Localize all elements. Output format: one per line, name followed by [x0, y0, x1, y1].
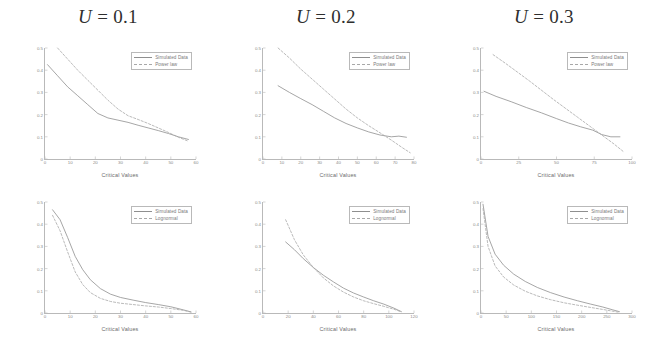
x-tick-label: 100: [385, 314, 392, 319]
y-tick-label: 0.3: [37, 90, 43, 95]
y-tick-label: 0.3: [255, 90, 261, 95]
column-title-u01: U = 0.1: [8, 6, 208, 28]
legend-swatch-simulated: [570, 56, 588, 59]
legend-label-model: Power law: [373, 62, 395, 67]
column-title-u02: U = 0.2: [226, 6, 426, 28]
y-tick-label: 0.1: [473, 134, 479, 139]
x-axis-label: Critical Values: [262, 172, 414, 178]
x-tick-label: 10: [68, 314, 73, 319]
panel-powerlaw-u03: P( α >= Critical Value) Simulated Data P…: [444, 40, 640, 188]
figure-canvas: U = 0.1 U = 0.2 U = 0.3 P( α >= Critical…: [0, 0, 653, 355]
y-tick-label: 0: [41, 157, 43, 162]
plot-area: Simulated Data Power law 025507510000.10…: [480, 48, 632, 160]
legend-label-model: Power law: [591, 62, 613, 67]
plot-area: Simulated Data Lognormal 020406080100120…: [262, 202, 414, 314]
legend-entry-simulated: Simulated Data: [570, 209, 624, 214]
legend-swatch-model: [134, 217, 152, 220]
x-axis-label: Critical Values: [262, 326, 414, 332]
plot-area: Simulated Data Power law 010203040506000…: [44, 48, 196, 160]
y-tick-label: 0.1: [37, 134, 43, 139]
y-tick-label: 0: [41, 311, 43, 316]
series-line: [483, 209, 619, 313]
y-tick-label: 0: [259, 311, 261, 316]
x-tick-label: 60: [194, 314, 199, 319]
x-tick-label: 30: [118, 160, 123, 165]
legend-entry-model: Lognormal: [570, 216, 624, 221]
x-tick-label: 25: [516, 160, 521, 165]
y-tick-label: 0.2: [255, 112, 261, 117]
legend-swatch-simulated: [134, 56, 152, 59]
y-tick-label: 0.3: [473, 90, 479, 95]
x-tick-label: 250: [603, 314, 610, 319]
x-tick-label: 75: [592, 160, 597, 165]
x-tick-label: 40: [143, 160, 148, 165]
x-tick-label: 20: [298, 160, 303, 165]
x-tick-label: 20: [93, 314, 98, 319]
plot-area: Simulated Data Power law 010203040506070…: [262, 48, 414, 160]
legend: Simulated Data Lognormal: [567, 206, 628, 224]
plot-area: Simulated Data Lognormal 010203040506000…: [44, 202, 196, 314]
y-tick-label: 0.5: [37, 46, 43, 51]
legend-label-simulated: Simulated Data: [591, 55, 624, 60]
x-tick-label: 0: [44, 314, 46, 319]
x-tick-label: 150: [553, 314, 560, 319]
legend-entry-model: Power law: [134, 62, 188, 67]
x-tick-label: 100: [528, 314, 535, 319]
y-tick-label: 0.1: [37, 288, 43, 293]
legend-swatch-model: [570, 63, 588, 66]
column-title-value: = 0.2: [310, 6, 356, 27]
x-axis-label: Critical Values: [44, 172, 196, 178]
legend: Simulated Data Lognormal: [349, 206, 410, 224]
y-tick-label: 0.5: [37, 200, 43, 205]
legend-swatch-simulated: [134, 210, 152, 213]
legend: Simulated Data Lognormal: [131, 206, 192, 224]
legend-swatch-model: [570, 217, 588, 220]
x-tick-label: 0: [262, 314, 264, 319]
x-tick-label: 30: [317, 160, 322, 165]
x-tick-label: 10: [68, 160, 73, 165]
series-line: [53, 210, 191, 312]
y-tick-label: 0.5: [255, 46, 261, 51]
x-axis-label: Critical Values: [44, 326, 196, 332]
x-tick-label: 20: [286, 314, 291, 319]
x-axis-label: Critical Values: [480, 172, 632, 178]
panel-lognormal-u02: P( α >= Critical Value) Simulated Data L…: [226, 194, 422, 342]
x-tick-label: 100: [628, 160, 635, 165]
column-title-value: = 0.1: [92, 6, 138, 27]
y-tick-label: 0: [259, 157, 261, 162]
legend-label-simulated: Simulated Data: [155, 209, 188, 214]
legend-label-model: Power law: [155, 62, 177, 67]
x-tick-label: 20: [93, 160, 98, 165]
legend-entry-simulated: Simulated Data: [134, 55, 188, 60]
legend-entry-model: Lognormal: [134, 216, 188, 221]
x-tick-label: 50: [168, 160, 173, 165]
legend-entry-model: Power law: [352, 62, 406, 67]
legend-entry-model: Lognormal: [352, 216, 406, 221]
panel-lognormal-u03: P( α >= Critical Value) Simulated Data L…: [444, 194, 640, 342]
column-title-variable: U: [296, 6, 310, 27]
x-tick-label: 0: [480, 314, 482, 319]
y-tick-label: 0.1: [255, 288, 261, 293]
y-tick-label: 0.3: [473, 244, 479, 249]
x-tick-label: 60: [194, 160, 199, 165]
x-tick-label: 50: [504, 314, 509, 319]
y-tick-label: 0.4: [37, 222, 43, 227]
legend-entry-simulated: Simulated Data: [352, 55, 406, 60]
legend-label-model: Lognormal: [591, 216, 614, 221]
y-tick-label: 0: [477, 157, 479, 162]
x-tick-label: 30: [118, 314, 123, 319]
series-line: [286, 242, 402, 312]
y-tick-label: 0.5: [473, 200, 479, 205]
x-axis-label: Critical Values: [480, 326, 632, 332]
y-tick-label: 0.2: [473, 266, 479, 271]
series-line: [278, 86, 406, 137]
legend: Simulated Data Power law: [131, 52, 192, 70]
x-tick-label: 40: [311, 314, 316, 319]
x-tick-label: 40: [143, 314, 148, 319]
x-tick-label: 0: [262, 160, 264, 165]
legend-label-model: Lognormal: [373, 216, 396, 221]
legend-swatch-model: [352, 63, 370, 66]
x-tick-label: 200: [578, 314, 585, 319]
legend-swatch-simulated: [570, 210, 588, 213]
legend: Simulated Data Power law: [349, 52, 410, 70]
